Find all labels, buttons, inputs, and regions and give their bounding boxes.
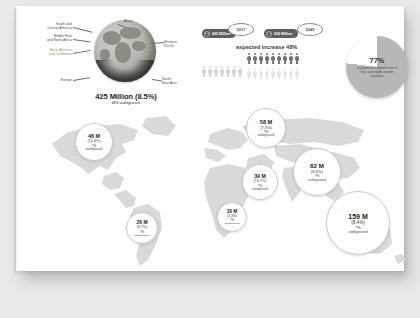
pie-caption: of people with diabetes live in low- and… [354,66,400,78]
year-badge-current: 2017 [228,23,254,36]
region-bubble-south-central-america[interactable]: 26 M (8.7%) ?% undiagnosed [126,212,158,244]
region-undiagnosed-label: undiagnosed [308,178,326,182]
global-total-value: 425 Million (8.5%) [71,92,181,101]
person-figure-icon [265,53,269,64]
person-figure-icon [289,68,293,79]
person-figure-icon [247,68,251,79]
future-value-pill: 629 Million [264,29,298,38]
globe-label-africa: Africa [124,19,133,23]
globe-label-north-america-caribbean: North Americaand Caribbean [24,48,72,57]
person-figure-icon [202,66,206,77]
person-figure-icon [295,68,299,79]
globe-label-europe: Europe [46,78,72,82]
global-total-undiagnosed: 46% undiagnosed [71,101,181,105]
people-pictogram-current [202,66,242,77]
person-figure-icon [277,68,281,79]
region-undiagnosed-label: undiagnosed [258,134,275,137]
current-value-label: 425 Million [212,32,230,36]
region-prevalence: (8.6%) [311,169,323,174]
globe-illustration [94,20,156,82]
person-figure-icon [265,68,269,79]
region-undiagnosed-label: undiagnosed [348,230,367,234]
person-figure-icon [277,53,281,64]
person-figure-icon [283,53,287,64]
infographic-canvas: South andCentral America Middle Eastand … [0,0,420,318]
globe-label-south-central-america: South andCentral America [28,22,72,31]
person-figure-icon [220,66,224,77]
region-undiagnosed-label: undiagnosed [225,222,240,225]
region-bubble-north-america-caribbean[interactable]: 46 M (11.4%) ?% undiagnosed [75,123,113,161]
person-figure-icon [253,68,257,79]
region-prevalence: (13.7%) [254,179,267,183]
people-pictogram-future [247,53,299,64]
region-value: 159 M [348,213,367,220]
region-bubble-western-pacific[interactable]: 159 M (8.4%) ?% undiagnosed [326,191,390,255]
person-figure-icon [271,68,275,79]
year-badge-future: 2045 [297,23,323,36]
future-value-label: 629 Million [274,32,292,36]
expected-increase-label: expected increase 48% [236,44,297,50]
person-figure-icon [253,53,257,64]
person-figure-icon [208,66,212,77]
region-prevalence: (7.3%) [260,125,271,130]
person-figure-icon [271,53,275,64]
person-figure-icon [259,68,263,79]
person-figure-icon [295,53,299,64]
region-bubble-africa[interactable]: 16 M (3.3%) ?% undiagnosed [217,202,247,232]
globe-label-middle-east-north-africa: Middle Eastand North Africa [28,34,72,43]
region-undiagnosed-label: undiagnosed [134,234,150,237]
region-prevalence: (8.4%) [351,220,365,225]
person-figure-icon [238,66,242,77]
region-value: 82 M [310,162,324,169]
person-icon [204,31,210,37]
people-pictogram-future-row2 [247,68,299,79]
region-undiagnosed-label: undiagnosed [252,188,268,191]
globe-shadow [94,60,156,82]
infographic-card: South andCentral America Middle Eastand … [16,6,404,271]
person-icon [266,31,272,37]
region-bubble-middle-east-north-africa[interactable]: 39 M (13.7%) ?% undiagnosed [242,164,278,200]
person-figure-icon [289,53,293,64]
person-figure-icon [283,68,287,79]
person-figure-icon [214,66,218,77]
region-prevalence: (11.4%) [87,139,100,143]
region-undiagnosed-label: undiagnosed [86,148,103,151]
pie-chart-text: 77% of people with diabetes live in low-… [346,36,408,98]
pie-percent-value: 77% [370,56,385,65]
globe-sphere [94,20,156,82]
person-figure-icon [232,66,236,77]
person-figure-icon [226,66,230,77]
region-bubble-south-east-asia[interactable]: 82 M (8.6%) ?% undiagnosed [293,148,341,196]
globe-label-south-east-asia: SouthEast Asia [162,77,177,86]
person-figure-icon [247,53,251,64]
globe-label-western-pacific: WesternPacific [164,40,177,49]
person-figure-icon [259,53,263,64]
region-bubble-europe[interactable]: 58 M (7.3%) ?% undiagnosed [246,108,286,148]
region-prevalence: (8.7%) [137,225,147,229]
